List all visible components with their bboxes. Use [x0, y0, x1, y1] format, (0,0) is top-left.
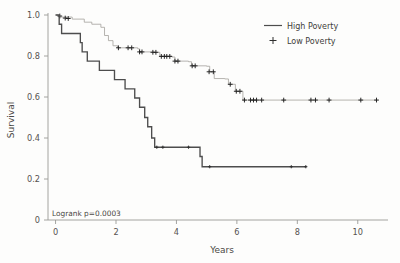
- chart-legend: High Poverty Low Poverty: [264, 22, 338, 46]
- chart-canvas: 00.20.40.60.81.0 0246810 Survival Years …: [0, 0, 400, 263]
- y-tick-label: 1.0: [27, 10, 40, 20]
- censor-tick: [155, 146, 158, 149]
- censor-tick: [176, 59, 181, 64]
- y-tick-label: 0.8: [27, 51, 40, 61]
- y-axis-title: Survival: [6, 102, 16, 138]
- censor-tick: [238, 89, 243, 94]
- censor-tick: [207, 69, 212, 74]
- censor-tick: [129, 45, 134, 50]
- censor-tick: [358, 98, 363, 103]
- legend-label-low-poverty: Low Poverty: [287, 37, 336, 46]
- censor-tick: [193, 63, 198, 68]
- censor-tick: [140, 50, 145, 55]
- x-tick-label: 0: [53, 227, 58, 237]
- y-tick-label: 0.2: [27, 174, 40, 184]
- y-axis: 00.20.40.60.81.0: [27, 10, 48, 225]
- x-axis: 0246810: [48, 220, 388, 237]
- censor-tick: [313, 98, 318, 103]
- y-axis-ticks: 00.20.40.60.81.0: [27, 10, 48, 225]
- censor-tick: [187, 146, 190, 149]
- logrank-annotation: Logrank p=0.0003: [52, 209, 121, 218]
- y-tick-label: 0.6: [27, 92, 40, 102]
- x-tick-label: 8: [295, 227, 300, 237]
- censor-tick: [161, 146, 164, 149]
- censor-tick: [374, 98, 379, 103]
- high-poverty-curve: [56, 15, 307, 167]
- legend-label-high-poverty: High Poverty: [287, 22, 338, 31]
- x-axis-ticks: 0246810: [53, 220, 363, 237]
- censor-tick: [304, 165, 307, 168]
- x-tick-label: 10: [353, 227, 363, 237]
- censor-tick: [167, 54, 172, 59]
- high-poverty-censor-marks: [155, 146, 307, 169]
- x-tick-label: 4: [174, 227, 179, 237]
- series-high-poverty: [56, 15, 308, 168]
- censor-tick: [211, 69, 216, 74]
- censor-tick: [290, 165, 293, 168]
- censor-tick: [254, 98, 259, 103]
- censor-tick: [309, 98, 314, 103]
- censor-tick: [281, 98, 286, 103]
- kaplan-meier-chart: 00.20.40.60.81.0 0246810 Survival Years …: [0, 0, 400, 263]
- censor-tick: [153, 50, 158, 55]
- chart-annotations: Logrank p=0.0003: [52, 209, 121, 218]
- censor-tick: [208, 165, 211, 168]
- y-tick-label: 0: [35, 215, 40, 225]
- censor-tick: [327, 98, 332, 103]
- legend-plus-swatch: [270, 37, 277, 44]
- y-tick-label: 0.4: [27, 133, 40, 143]
- x-tick-label: 2: [113, 227, 118, 237]
- censor-tick: [259, 98, 264, 103]
- x-tick-label: 6: [234, 227, 239, 237]
- x-axis-title: Years: [209, 245, 234, 255]
